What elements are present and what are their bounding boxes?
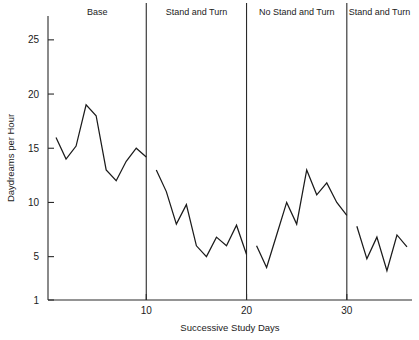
phase-label: Stand and Turn	[166, 7, 228, 17]
y-tick-label: 5	[33, 251, 39, 262]
x-tick-label: 30	[341, 305, 353, 316]
y-tick-label: 10	[28, 197, 40, 208]
y-tick-label: 25	[28, 34, 40, 45]
y-axis-title: Daydreams per Hour	[5, 114, 16, 202]
y-tick-label: 20	[28, 89, 40, 100]
daydreams-line-chart: 1510152025102030Successive Study DaysDay…	[0, 0, 419, 340]
y-tick-label: 15	[28, 143, 40, 154]
phase-label: No Stand and Turn	[259, 7, 335, 17]
chart-background	[0, 0, 419, 340]
chart-figure: 1510152025102030Successive Study DaysDay…	[0, 0, 419, 340]
phase-label: Stand and Turn	[349, 7, 411, 17]
x-tick-label: 10	[141, 305, 153, 316]
phase-label: Base	[87, 7, 108, 17]
y-tick-label: 1	[33, 295, 39, 306]
x-tick-label: 20	[241, 305, 253, 316]
x-axis-title: Successive Study Days	[180, 322, 280, 333]
